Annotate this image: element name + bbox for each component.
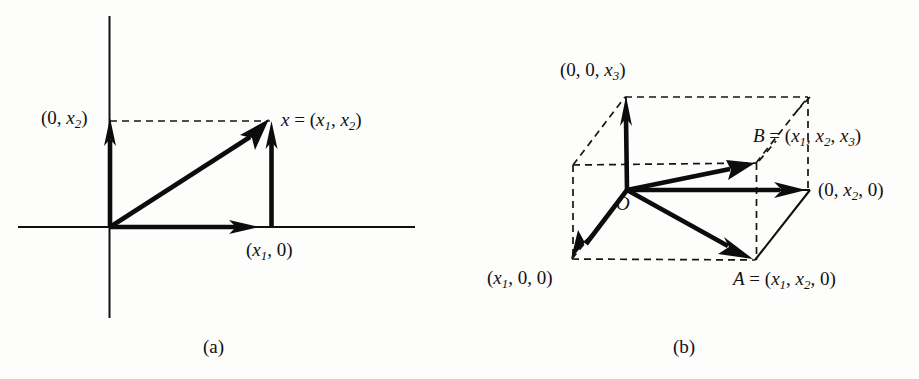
arrowhead-to-b-3d <box>726 160 755 180</box>
panel-a-graphics <box>0 0 919 379</box>
label-z-component-3d: (0, 0, x3) <box>560 60 626 83</box>
arrowhead-to-a-3d <box>718 237 753 259</box>
figure-root: (0, x2) (x1, 0) x = (x1, x2) (0, 0, x3) … <box>0 0 919 379</box>
vectors-3d <box>571 96 806 259</box>
vector-z-component-3d <box>626 118 627 190</box>
label-x-component-3d: (x1, 0, 0) <box>487 268 553 291</box>
box-edge-top-left-diagonal <box>573 97 625 165</box>
box-edge-bottom-back <box>572 259 755 260</box>
axis-2d-group <box>18 16 415 318</box>
caption-panel-a: (a) <box>203 336 224 358</box>
label-y-component-3d: (0, x2, 0) <box>818 180 884 203</box>
box-solid-edges-3d <box>627 190 810 260</box>
vector-resultant-2d <box>110 137 250 227</box>
caption-panel-b: (b) <box>673 336 695 358</box>
label-y-component-2d: (0, x2) <box>41 108 88 131</box>
box-edge-front-right-diagonal <box>755 190 810 260</box>
label-point-a-3d: A = (x1, x2, 0) <box>733 269 836 292</box>
label-point-b-3d: B = (x1, x2, x3) <box>753 126 861 149</box>
vector-to-a-3d <box>627 190 728 246</box>
vectors-2d <box>104 118 278 234</box>
arrowhead-resultant-2d <box>240 119 269 150</box>
label-vector-point-2d: x = (x1, x2) <box>281 110 362 133</box>
vector-to-b-3d <box>627 169 730 190</box>
label-origin-3d: O <box>616 193 630 215</box>
label-x-component-2d: (x1, 0) <box>246 240 293 263</box>
